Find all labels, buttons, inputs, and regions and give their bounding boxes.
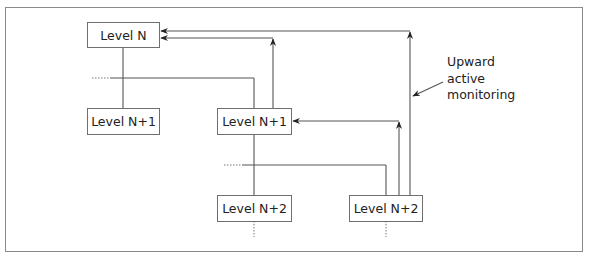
node-level-n2-left: Level N+2: [217, 195, 292, 222]
node-level-n1-mid: Level N+1: [217, 108, 292, 135]
node-label: Level N+1: [91, 114, 156, 129]
annotation-upward-active-monitoring: Upward active monitoring: [447, 54, 515, 104]
node-label: Level N: [100, 28, 146, 43]
node-level-n: Level N: [87, 22, 160, 48]
annotation-line: active: [447, 71, 515, 88]
node-level-n1-left: Level N+1: [87, 108, 160, 135]
diagram-canvas: Level N Level N+1 Level N+1 Level N+2 Le…: [0, 0, 589, 256]
node-label: Level N+2: [222, 201, 287, 216]
node-label: Level N+2: [354, 201, 419, 216]
node-label: Level N+1: [222, 114, 287, 129]
annotation-line: Upward: [447, 54, 515, 71]
annotation-line: monitoring: [447, 87, 515, 104]
annotation-pointer: [413, 82, 443, 96]
node-level-n2-right: Level N+2: [349, 195, 423, 222]
